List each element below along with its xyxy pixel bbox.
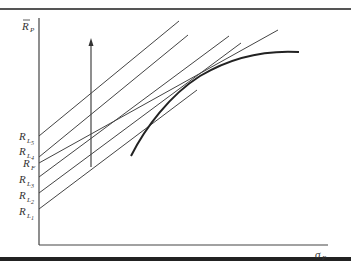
intercept-label-RL5: R L 5	[18, 130, 34, 146]
label-index: 3	[30, 183, 34, 189]
label-index: 5	[31, 140, 34, 146]
label-index: 2	[31, 199, 34, 205]
capital-market-line-L3	[39, 36, 229, 177]
arrow-head-icon	[89, 38, 94, 46]
y-axis-title: R P	[21, 20, 35, 34]
y-axis-title-sub: P	[29, 26, 35, 34]
y-axis-title-main: R	[21, 20, 29, 32]
label-main: R	[18, 145, 26, 157]
label-main: R	[18, 130, 26, 142]
capital-market-line-L4	[39, 35, 188, 157]
x-axis-title-main: σ	[315, 248, 321, 260]
efficient-frontier-curve	[131, 52, 299, 156]
label-main: R	[18, 205, 26, 217]
label-index: 1	[31, 215, 34, 221]
label-index: 4	[31, 155, 34, 161]
intercept-label-RL1: R L 1	[18, 205, 34, 221]
label-sub: F	[30, 164, 36, 172]
diagram-canvas: R P σ P R L 5 R L 4 R F R L 3 R L 2 R L …	[0, 0, 351, 268]
intercept-label-RL2: R L 2	[18, 189, 34, 205]
x-axis-title: σ P	[315, 248, 327, 262]
capital-market-line-F	[39, 30, 278, 163]
capital-market-line-L2	[39, 43, 241, 193]
label-main: R	[18, 189, 26, 201]
label-main: R	[22, 157, 30, 169]
label-main: R	[18, 173, 26, 185]
x-axis-title-sub: P	[321, 254, 327, 262]
intercept-label-RL3: R L 3	[18, 173, 34, 189]
